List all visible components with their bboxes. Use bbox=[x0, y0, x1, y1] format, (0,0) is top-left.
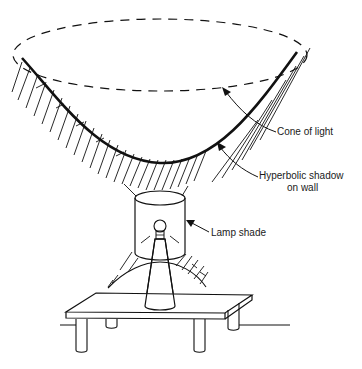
hyperbolic-shadow-curve bbox=[22, 52, 297, 163]
table bbox=[60, 239, 290, 352]
right-edge-shading bbox=[212, 48, 310, 182]
light-bulb bbox=[154, 220, 166, 239]
lamp-shade-leader bbox=[186, 220, 209, 232]
hyperbolic-shadow-label-line2: on wall bbox=[287, 182, 318, 193]
cone-of-light-ellipse bbox=[13, 19, 307, 91]
hyperbolic-shadow-label-line1: Hyperbolic shadow bbox=[259, 170, 344, 181]
cone-of-light-label: Cone of light bbox=[277, 126, 333, 137]
lamp-shade bbox=[135, 191, 185, 260]
lamp-shade-label: Lamp shade bbox=[211, 227, 266, 238]
lower-shadow-arc bbox=[108, 252, 208, 288]
lamp-shadow-diagram: Cone of light Hyperbolic shadow on wall … bbox=[0, 0, 362, 369]
